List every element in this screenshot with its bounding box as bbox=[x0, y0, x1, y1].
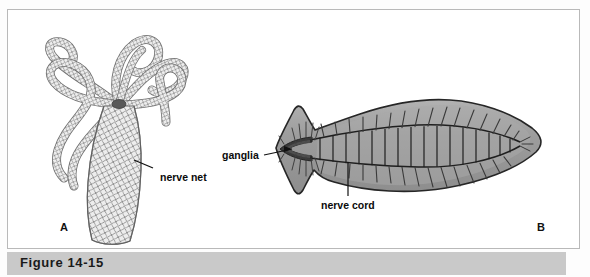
panel-label-b: B bbox=[537, 221, 545, 233]
callout-nerve-cord: nerve cord bbox=[321, 199, 375, 211]
panel-label-a: A bbox=[60, 221, 68, 233]
figure-frame: nerve net ganglia nerve cord A B bbox=[7, 9, 580, 249]
callout-nerve-net: nerve net bbox=[160, 171, 207, 183]
hydra-illustration bbox=[50, 40, 184, 245]
figure-caption-text: Figure 14-15 bbox=[20, 255, 104, 270]
figure-artwork bbox=[8, 10, 581, 250]
figure-page: nerve net ganglia nerve cord A B Figure … bbox=[0, 0, 590, 277]
flatworm-illustration bbox=[276, 100, 541, 194]
hydra-hypostome bbox=[112, 100, 126, 109]
callout-ganglia: ganglia bbox=[222, 149, 259, 161]
figure-caption-band: Figure 14-15 bbox=[7, 252, 566, 275]
